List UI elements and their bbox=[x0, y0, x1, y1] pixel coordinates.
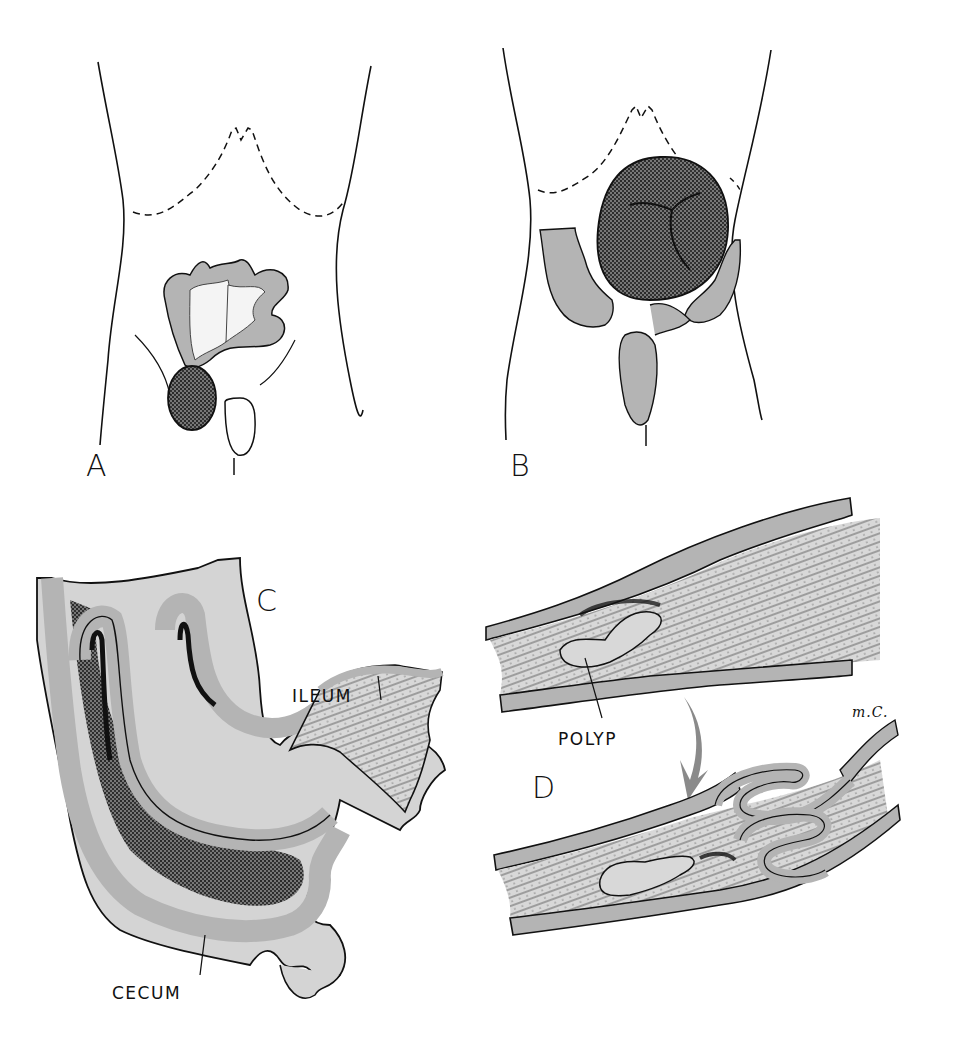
callout-cecum: CECUM bbox=[112, 983, 181, 1003]
panel-label-b: B bbox=[510, 448, 531, 483]
panel-label-a: A bbox=[86, 448, 108, 483]
callout-polyp: POLYP bbox=[558, 729, 617, 749]
torso-outline-right bbox=[336, 66, 371, 416]
rib-margin-dashed bbox=[133, 128, 345, 216]
panel-c bbox=[37, 558, 445, 998]
illustration-canvas bbox=[0, 0, 978, 1038]
panel-label-c: C bbox=[256, 583, 278, 618]
panel-a bbox=[98, 62, 371, 475]
transition-arrow bbox=[680, 697, 708, 800]
torso-outline-left bbox=[503, 48, 531, 440]
panel-label-d: D bbox=[532, 770, 556, 805]
panel-b bbox=[503, 48, 771, 446]
artist-signature: m.C. bbox=[852, 704, 888, 720]
arrow-icon bbox=[680, 697, 708, 800]
callout-ileum: ILEUM bbox=[292, 686, 352, 706]
intussusception-mass-a bbox=[168, 366, 216, 430]
sigmoid bbox=[619, 332, 657, 425]
intussusception-mass-b bbox=[597, 157, 728, 300]
torso-outline-left bbox=[98, 62, 124, 445]
torso-outline-right bbox=[732, 50, 771, 420]
scrotum bbox=[225, 398, 255, 455]
panel-d-before bbox=[486, 498, 880, 718]
